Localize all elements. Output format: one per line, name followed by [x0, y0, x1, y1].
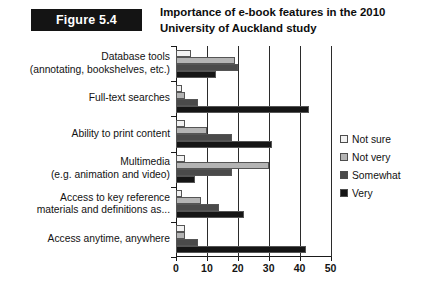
bar-somewhat	[176, 64, 238, 71]
bar-not-sure	[176, 190, 182, 197]
x-axis-tick-label: 10	[192, 262, 222, 274]
category-label: Access to key referencematerials and def…	[2, 192, 170, 217]
gridline	[269, 46, 270, 257]
y-axis-tick	[171, 222, 176, 223]
x-axis-line	[176, 256, 331, 257]
x-axis-tick-label: 30	[254, 262, 284, 274]
bar-very	[176, 246, 306, 253]
category-label-line: Database tools	[2, 51, 170, 64]
legend-item: Not sure	[340, 130, 422, 148]
legend-swatch-icon	[340, 189, 348, 197]
legend-label: Not sure	[352, 134, 391, 145]
category-label-line: Full-text searches	[2, 92, 170, 105]
bar-somewhat	[176, 99, 198, 106]
gridline	[300, 46, 301, 257]
figure-title-line-1: Importance of e-book features in the 201…	[160, 5, 418, 21]
category-label-line: Access to key reference	[2, 192, 170, 205]
y-axis-tick	[171, 257, 176, 258]
x-axis-tick-label: 40	[285, 262, 315, 274]
legend-label: Somewhat	[352, 170, 401, 181]
gridline	[331, 46, 332, 257]
x-axis-tick	[300, 257, 301, 261]
figure-title: Importance of e-book features in the 201…	[160, 5, 418, 36]
category-label: Database tools(annotating, bookshelves, …	[2, 51, 170, 76]
gridline	[207, 46, 208, 257]
category-label-line: (annotating, bookshelves, etc.)	[2, 64, 170, 77]
bar-not-sure	[176, 225, 185, 232]
x-axis-tick-label: 50	[316, 262, 346, 274]
x-axis-tick	[269, 257, 270, 261]
bar-not-very	[176, 197, 201, 204]
bar-not-sure	[176, 155, 185, 162]
x-axis-tick	[176, 257, 177, 261]
y-axis-tick	[171, 81, 176, 82]
bar-somewhat	[176, 169, 232, 176]
bar-not-sure	[176, 50, 191, 57]
category-label-line: Multimedia	[2, 156, 170, 169]
y-axis-tick	[171, 187, 176, 188]
legend-item: Not very	[340, 148, 422, 166]
bar-somewhat	[176, 134, 232, 141]
legend-label: Very	[352, 188, 373, 199]
category-label-line: Ability to print content	[2, 128, 170, 141]
category-label-line: (e.g. animation and video)	[2, 169, 170, 182]
legend-swatch-icon	[340, 153, 348, 161]
bar-very	[176, 176, 195, 183]
category-label-line: Access anytime, anywhere	[2, 233, 170, 246]
legend-swatch-icon	[340, 171, 348, 179]
category-label: Multimedia(e.g. animation and video)	[2, 156, 170, 181]
legend-item: Very	[340, 184, 422, 202]
figure-title-line-2: University of Auckland study	[160, 21, 418, 37]
x-axis-tick-label: 20	[223, 262, 253, 274]
legend-item: Somewhat	[340, 166, 422, 184]
bar-not-very	[176, 232, 185, 239]
y-axis-tick	[171, 116, 176, 117]
bar-not-very	[176, 92, 185, 99]
y-axis-tick	[171, 46, 176, 47]
legend-label: Not very	[352, 152, 390, 163]
bar-very	[176, 106, 309, 113]
category-label: Ability to print content	[2, 128, 170, 141]
bar-not-sure	[176, 85, 182, 92]
category-label: Full-text searches	[2, 92, 170, 105]
bar-not-very	[176, 127, 207, 134]
bar-not-sure	[176, 120, 185, 127]
x-axis-tick	[238, 257, 239, 261]
bar-somewhat	[176, 239, 198, 246]
figure-container: Figure 5.4 Importance of e-book features…	[0, 0, 425, 294]
chart-legend: Not sureNot verySomewhatVery	[340, 130, 422, 202]
bar-somewhat	[176, 204, 219, 211]
category-label: Access anytime, anywhere	[2, 233, 170, 246]
bar-very	[176, 71, 216, 78]
bar-not-very	[176, 57, 235, 64]
bar-very	[176, 211, 244, 218]
legend-swatch-icon	[340, 135, 348, 143]
y-axis-tick	[171, 152, 176, 153]
category-label-line: materials and definitions as...	[2, 204, 170, 217]
gridline	[238, 46, 239, 257]
bar-very	[176, 141, 272, 148]
x-axis-tick-label: 0	[161, 262, 191, 274]
x-axis-tick	[207, 257, 208, 261]
figure-header: Figure 5.4 Importance of e-book features…	[0, 0, 425, 46]
figure-number-badge: Figure 5.4	[31, 9, 142, 31]
bar-not-very	[176, 162, 269, 169]
x-axis-tick	[331, 257, 332, 261]
